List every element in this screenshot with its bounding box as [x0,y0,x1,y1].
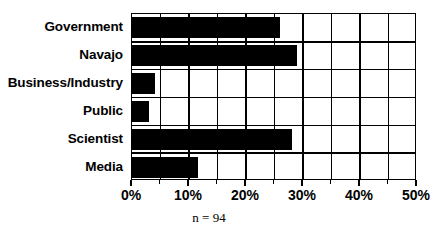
bar [132,73,155,94]
bar [132,129,292,150]
y-axis-label: Government [0,13,127,41]
y-axis-category-labels: GovernmentNavajoBusiness/IndustryPublicS… [0,13,127,180]
plot-area [131,13,416,180]
bar-row [132,14,415,42]
y-axis-label: Scientist [0,124,127,152]
chart-figure: GovernmentNavajoBusiness/IndustryPublicS… [0,0,436,237]
y-axis-label: Media [0,152,127,180]
bar-row [132,153,415,181]
x-axis-tick-major [415,180,417,186]
sample-size-text: n = 94 [192,210,225,225]
bar-row [132,70,415,98]
x-axis-tick-major [187,180,189,186]
x-axis-tick-minor [159,180,161,184]
y-axis-label: Public [0,96,127,124]
x-axis-tick-labels: 0%10%20%30%40%50% [131,187,416,207]
bar-row [132,98,415,126]
x-axis-tick-major [130,180,132,186]
x-axis-tick-minor [273,180,275,184]
x-axis-tick-label: 30% [288,187,316,203]
x-axis-tick-minor [330,180,332,184]
y-axis-label: Business/Industry [0,69,127,97]
x-axis-tick-major [244,180,246,186]
y-axis-label: Navajo [0,41,127,69]
bar-row [132,42,415,70]
bar [132,45,297,66]
x-axis-tick-label: 10% [174,187,202,203]
x-axis-tick-label: 20% [231,187,259,203]
x-axis-tick-minor [387,180,389,184]
x-axis-tick-label: 40% [345,187,373,203]
x-axis-tick-label: 50% [402,187,430,203]
x-axis-tick-minor [216,180,218,184]
x-axis-tick-major [358,180,360,186]
x-axis-ticks [131,180,416,186]
bar [132,101,149,122]
bar-row [132,125,415,153]
x-axis-tick-major [301,180,303,186]
bar [132,17,280,38]
x-axis-tick-label: 0% [121,187,141,203]
bar-series [132,14,415,179]
bar [132,157,198,178]
chart-caption: n = 94 [0,210,436,226]
